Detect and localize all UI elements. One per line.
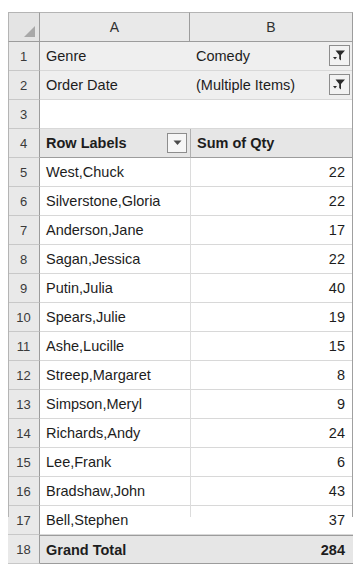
select-all-triangle-icon: [24, 26, 35, 37]
cell-a-text: Silverstone,Gloria: [46, 193, 160, 209]
cell-b-text: Sum of Qty: [197, 135, 274, 151]
table-row[interactable]: 12Streep,Margaret8: [8, 361, 353, 390]
row-header-number[interactable]: 4: [8, 129, 40, 158]
cell-a[interactable]: Anderson,Jane: [40, 216, 190, 245]
cell-a-text: Ashe,Lucille: [46, 338, 124, 354]
row-header-number[interactable]: 9: [8, 274, 40, 303]
cell-b-text: 9: [337, 396, 345, 412]
cell-a-text: Putin,Julia: [46, 280, 113, 296]
grid-right-border: [352, 42, 353, 517]
cell-b[interactable]: 8: [190, 361, 353, 390]
table-row[interactable]: 16Bradshaw,John43: [8, 477, 353, 506]
cell-a[interactable]: Putin,Julia: [40, 274, 190, 303]
cell-a[interactable]: Bradshaw,John: [40, 477, 190, 506]
cell-b[interactable]: 40: [190, 274, 353, 303]
cell-b[interactable]: 22: [190, 245, 353, 274]
table-row[interactable]: 2Order Date(Multiple Items): [8, 71, 353, 100]
cell-a[interactable]: Lee,Frank: [40, 448, 190, 477]
cell-a-text: Genre: [46, 48, 86, 64]
row-header-number[interactable]: 12: [8, 361, 40, 390]
cell-b-text: 19: [329, 309, 345, 325]
cell-b-text: 6: [337, 454, 345, 470]
cell-a[interactable]: Order Date: [40, 71, 190, 100]
cell-b[interactable]: 22: [190, 158, 353, 187]
row-header-number[interactable]: 18: [8, 535, 40, 564]
cell-a[interactable]: Richards,Andy: [40, 419, 190, 448]
column-header-row: A B: [8, 12, 353, 42]
row-header-number[interactable]: 13: [8, 390, 40, 419]
table-row[interactable]: 1GenreComedy: [8, 42, 353, 71]
cell-b-text: 17: [329, 222, 345, 238]
table-row[interactable]: 4Row LabelsSum of Qty: [8, 129, 353, 158]
row-header-number[interactable]: 10: [8, 303, 40, 332]
cell-a[interactable]: Row Labels: [40, 129, 190, 158]
cell-b[interactable]: 6: [190, 448, 353, 477]
cell-b[interactable]: 9: [190, 390, 353, 419]
row-header-number[interactable]: 14: [8, 419, 40, 448]
cell-a[interactable]: Genre: [40, 42, 190, 71]
cell-b-text: 37: [329, 512, 345, 528]
row-header-number[interactable]: 1: [8, 42, 40, 71]
table-row[interactable]: 17Bell,Stephen37: [8, 506, 353, 535]
cell-b[interactable]: 37: [190, 506, 353, 535]
cell-b[interactable]: 24: [190, 419, 353, 448]
cell-a[interactable]: Grand Total: [40, 535, 190, 564]
row-header-number[interactable]: 2: [8, 71, 40, 100]
row-header-number[interactable]: 17: [8, 506, 40, 535]
row-header-number[interactable]: 5: [8, 158, 40, 187]
cell-a[interactable]: [40, 100, 190, 129]
row-labels-dropdown-button[interactable]: [167, 133, 187, 153]
cell-a[interactable]: Ashe,Lucille: [40, 332, 190, 361]
cell-a-text: Lee,Frank: [46, 454, 111, 470]
table-row[interactable]: 11Ashe,Lucille15: [8, 332, 353, 361]
table-row[interactable]: 8Sagan,Jessica22: [8, 245, 353, 274]
select-all-corner-button[interactable]: [8, 12, 40, 42]
cell-b[interactable]: Comedy: [190, 42, 353, 71]
cell-b[interactable]: (Multiple Items): [190, 71, 353, 100]
table-row[interactable]: 7Anderson,Jane17: [8, 216, 353, 245]
cell-a[interactable]: Spears,Julie: [40, 303, 190, 332]
cell-b-text: 22: [329, 251, 345, 267]
table-row[interactable]: 13Simpson,Meryl9: [8, 390, 353, 419]
cell-b-text: 24: [329, 425, 345, 441]
filter-funnel-icon: [332, 77, 347, 92]
table-row[interactable]: 18Grand Total284: [8, 535, 353, 564]
cell-b-text: Comedy: [196, 48, 250, 64]
cell-b[interactable]: 284: [190, 535, 353, 564]
pivot-filter-button[interactable]: [329, 74, 350, 95]
cell-b[interactable]: 15: [190, 332, 353, 361]
row-header-number[interactable]: 8: [8, 245, 40, 274]
cell-b-text: 15: [329, 338, 345, 354]
cell-a[interactable]: West,Chuck: [40, 158, 190, 187]
table-row[interactable]: 9Putin,Julia40: [8, 274, 353, 303]
column-header-a[interactable]: A: [40, 12, 190, 42]
cell-b[interactable]: 17: [190, 216, 353, 245]
cell-a-text: Richards,Andy: [46, 425, 140, 441]
row-header-number[interactable]: 15: [8, 448, 40, 477]
cell-a[interactable]: Simpson,Meryl: [40, 390, 190, 419]
table-row[interactable]: 14Richards,Andy24: [8, 419, 353, 448]
row-header-number[interactable]: 3: [8, 100, 40, 129]
cell-b[interactable]: Sum of Qty: [190, 129, 353, 158]
row-header-number[interactable]: 11: [8, 332, 40, 361]
row-header-number[interactable]: 6: [8, 187, 40, 216]
row-header-number[interactable]: 16: [8, 477, 40, 506]
cell-a[interactable]: Streep,Margaret: [40, 361, 190, 390]
table-row[interactable]: 10Spears,Julie19: [8, 303, 353, 332]
column-header-b[interactable]: B: [190, 12, 353, 42]
cell-b[interactable]: 22: [190, 187, 353, 216]
table-row[interactable]: 15Lee,Frank6: [8, 448, 353, 477]
cell-b[interactable]: 19: [190, 303, 353, 332]
spreadsheet-grid: A B 1GenreComedy2Order Date(Multiple Ite…: [8, 12, 353, 517]
cell-b[interactable]: [190, 100, 353, 129]
table-row[interactable]: 5West,Chuck22: [8, 158, 353, 187]
table-row[interactable]: 3: [8, 100, 353, 129]
cell-a[interactable]: Bell,Stephen: [40, 506, 190, 535]
cell-b-text: (Multiple Items): [196, 77, 295, 93]
cell-b[interactable]: 43: [190, 477, 353, 506]
table-row[interactable]: 6Silverstone,Gloria22: [8, 187, 353, 216]
pivot-filter-button[interactable]: [329, 45, 350, 66]
cell-a[interactable]: Silverstone,Gloria: [40, 187, 190, 216]
row-header-number[interactable]: 7: [8, 216, 40, 245]
cell-a[interactable]: Sagan,Jessica: [40, 245, 190, 274]
